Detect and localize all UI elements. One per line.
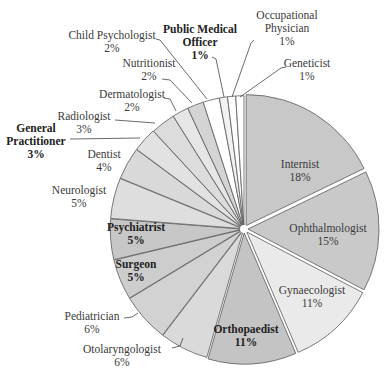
label-radiologist: Radiologist3% (57, 110, 111, 135)
leader-line-public-medical-officer (212, 57, 224, 97)
label-neurologist: Neurologist5% (52, 184, 107, 209)
leader-line-nutritionist (162, 79, 192, 103)
leader-line-dermatologist (164, 98, 176, 111)
pie-center (240, 225, 248, 233)
label-general-practitioner: GeneralPractitioner3% (6, 122, 65, 160)
label-pediatrician: Pediatrician6% (65, 310, 120, 335)
label-child-psychologist: Child Psychologist2% (68, 29, 156, 54)
pie-chart: Internist18%Ophthalmologist15%Gynaecolog… (0, 0, 384, 376)
label-geneticist: Geneticist1% (284, 57, 331, 82)
leader-line-pediatrician (124, 313, 138, 318)
label-otolaryngologist: Otolaryngologist6% (83, 343, 162, 368)
label-occupational-physician: OccupationalPhysician1% (256, 9, 317, 47)
leader-line-geneticist (240, 67, 286, 97)
leader-line-general-practitioner (70, 138, 140, 139)
leader-line-occupational-physician (232, 40, 254, 97)
label-nutritionist: Nutritionist2% (122, 57, 176, 82)
leader-line-radiologist (115, 120, 155, 123)
label-dentist: Dentist4% (87, 148, 121, 173)
label-public-medical-officer: Public MedicalOfficer1% (163, 23, 237, 61)
